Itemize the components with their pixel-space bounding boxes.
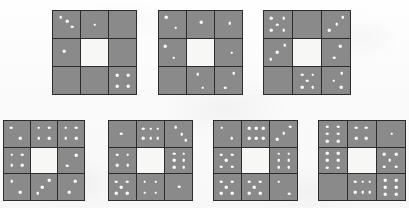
matrix-5-cell-center — [137, 148, 164, 174]
dot — [354, 191, 357, 194]
dot — [248, 180, 251, 183]
dot — [369, 191, 372, 194]
dot — [116, 85, 119, 88]
dot — [340, 86, 343, 89]
dot — [277, 166, 280, 169]
dot — [175, 126, 178, 129]
dot — [224, 86, 227, 89]
dot — [361, 180, 364, 183]
dot — [156, 137, 159, 140]
dot — [120, 133, 123, 136]
dot — [183, 159, 186, 162]
matrix-5-cell-top-right — [165, 121, 192, 147]
matrix-3-cell-top-middle — [293, 11, 321, 38]
dot — [288, 159, 291, 162]
matrix-4-cell-middle-left — [4, 148, 30, 174]
dot — [277, 159, 280, 162]
matrix-6-cell-top-left — [214, 121, 241, 147]
dot — [311, 73, 314, 76]
dot — [259, 180, 262, 183]
dot — [326, 133, 329, 136]
dot — [142, 137, 145, 140]
dot — [10, 126, 13, 129]
dot — [395, 193, 398, 196]
dot — [253, 186, 256, 189]
matrix-7-cell-top-middle — [348, 121, 376, 147]
dot — [11, 164, 14, 167]
dot — [248, 137, 251, 140]
dot — [220, 154, 223, 157]
dot-matrix-6 — [213, 120, 298, 201]
dot — [384, 193, 387, 196]
dot — [127, 74, 130, 77]
matrix-2-cell-bottom-left — [159, 67, 186, 94]
dot — [75, 126, 78, 129]
dot — [201, 86, 204, 89]
matrix-7-cell-middle-right — [377, 148, 405, 174]
dot — [389, 159, 392, 162]
dot — [21, 154, 24, 157]
dot — [66, 20, 69, 23]
matrix-1-cell-middle-left — [53, 39, 80, 66]
dot — [156, 127, 159, 130]
matrix-2-cell-top-right — [215, 11, 242, 38]
dot — [231, 154, 234, 157]
dot — [126, 192, 129, 195]
matrix-1-cell-bottom-middle — [81, 67, 108, 94]
dot — [276, 23, 279, 26]
dot — [183, 166, 186, 169]
dot-matrix-1 — [52, 10, 137, 95]
matrix-1-cell-middle-right — [109, 39, 136, 66]
dot — [19, 191, 22, 194]
matrix-4-cell-top-right — [58, 121, 84, 147]
dot — [228, 22, 231, 25]
matrix-4-cell-bottom-right — [58, 174, 84, 200]
matrix-5-cell-middle-right — [165, 148, 192, 174]
dot — [384, 179, 387, 182]
dot — [48, 137, 51, 140]
matrix-3-cell-center — [293, 39, 321, 66]
matrix-7-cell-center — [348, 148, 376, 174]
dot — [361, 191, 364, 194]
matrix-7-cell-middle-left — [319, 148, 347, 174]
dot — [231, 165, 234, 168]
matrix-3-cell-bottom-middle — [293, 67, 321, 94]
dot — [301, 73, 304, 76]
dot — [231, 180, 234, 183]
matrix-2-cell-center — [187, 39, 214, 66]
dot — [143, 180, 146, 183]
dot — [326, 166, 329, 169]
dot — [48, 126, 51, 129]
matrix-5-cell-middle-left — [109, 148, 136, 174]
dot — [74, 180, 77, 183]
dot — [365, 137, 368, 140]
dot — [173, 166, 176, 169]
dot — [63, 50, 66, 53]
dot — [65, 126, 68, 129]
dot — [231, 192, 234, 195]
dot — [220, 165, 223, 168]
dot — [41, 186, 44, 189]
dot — [178, 185, 181, 188]
matrix-7-cell-top-left — [319, 121, 347, 147]
matrix-1-cell-top-right — [109, 11, 136, 38]
dot — [340, 72, 343, 75]
figure-canvas — [0, 0, 409, 208]
dot — [328, 29, 331, 32]
dot — [116, 164, 119, 167]
matrix-1-cell-top-middle — [81, 11, 108, 38]
dot — [174, 26, 177, 29]
dot — [288, 166, 291, 169]
dot — [21, 164, 24, 167]
dot — [337, 159, 340, 162]
matrix-1-cell-top-left — [53, 11, 80, 38]
dot — [127, 85, 130, 88]
dot — [11, 154, 14, 157]
matrix-2-cell-bottom-right — [215, 67, 242, 94]
dot — [248, 192, 251, 195]
dot — [220, 126, 223, 129]
dot — [282, 29, 285, 32]
dot — [259, 192, 262, 195]
dot — [143, 192, 146, 195]
dot — [115, 192, 118, 195]
